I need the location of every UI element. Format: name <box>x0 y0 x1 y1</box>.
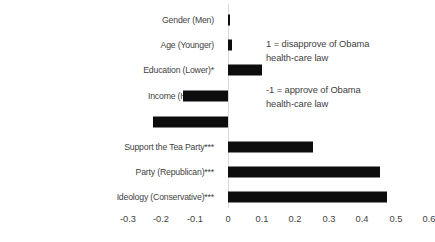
x-tick-label: 0.5 <box>390 214 403 225</box>
bar-tea-party <box>228 142 313 153</box>
bar-party <box>228 167 380 178</box>
x-tick-label: -0.1 <box>187 214 203 225</box>
x-tick-label: 0.2 <box>289 214 302 225</box>
annotation-approve: -1 = approve of Obama health-care law <box>266 83 361 110</box>
x-tick-label: 0.6 <box>423 214 435 225</box>
annotation-disapprove: 1 = disapprove of Obama health-care law <box>266 37 369 64</box>
bar-education <box>228 65 262 76</box>
x-tick-label: 0.1 <box>256 214 269 225</box>
bar-race <box>153 117 228 128</box>
x-tick-label: 0.3 <box>323 214 336 225</box>
bar-gender <box>228 15 230 26</box>
x-tick-label: 0 <box>225 214 230 225</box>
x-tick-label: -0.2 <box>153 214 169 225</box>
bar-income <box>183 91 228 102</box>
x-tick-label: -0.3 <box>120 214 136 225</box>
bar-age <box>228 40 232 51</box>
bar-chart: Gender (Men) Age (Younger) Education (Lo… <box>0 0 435 242</box>
plot-area <box>0 0 435 208</box>
bar-ideology <box>228 192 387 203</box>
x-tick-label: 0.4 <box>356 214 369 225</box>
x-axis: -0.3 -0.2 -0.1 0 0.1 0.2 0.3 0.4 0.5 0.6 <box>0 208 435 242</box>
